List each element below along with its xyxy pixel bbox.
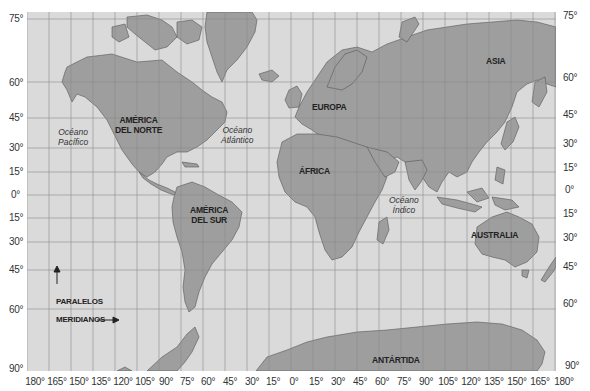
label-australia: AUSTRALIA bbox=[471, 230, 518, 240]
lon-label: 165° bbox=[530, 376, 549, 387]
lat-label: 15° bbox=[9, 166, 23, 177]
label-asia: ASIA bbox=[486, 56, 506, 66]
lat-label: 45° bbox=[9, 112, 23, 123]
lon-label: 45° bbox=[353, 376, 367, 387]
lat-label: 30° bbox=[9, 142, 23, 153]
lon-label: 30° bbox=[331, 376, 345, 387]
lon-label: 120° bbox=[461, 376, 480, 387]
uk-shape bbox=[285, 86, 302, 108]
lat-label: 15° bbox=[563, 162, 577, 173]
lon-label: 0° bbox=[290, 376, 299, 387]
lat-label: 45° bbox=[9, 264, 23, 275]
lon-label: 105° bbox=[135, 376, 154, 387]
south-america-shape bbox=[172, 182, 242, 312]
label-pacific-ocean: Océano Pacífico bbox=[58, 127, 88, 147]
lat-label: 45° bbox=[563, 261, 577, 272]
lat-label: 75° bbox=[9, 13, 23, 24]
arctic-islands-shape bbox=[127, 15, 177, 50]
lon-label: 15° bbox=[309, 376, 323, 387]
lon-label: 105° bbox=[438, 376, 457, 387]
lon-label: 165° bbox=[47, 376, 66, 387]
lat-label: 15° bbox=[563, 208, 577, 219]
lon-label: 150° bbox=[507, 376, 526, 387]
lat-label: 90° bbox=[9, 363, 23, 374]
lat-label: 15° bbox=[9, 212, 23, 223]
legend-meridians: MERIDIANOS bbox=[56, 315, 105, 324]
lon-label: 15° bbox=[266, 376, 280, 387]
lat-label: 0° bbox=[11, 189, 20, 200]
lat-label: 60° bbox=[9, 77, 23, 88]
lat-label: 60° bbox=[9, 304, 23, 315]
label-europe: EUROPA bbox=[312, 102, 347, 112]
lat-label: 45° bbox=[563, 109, 577, 120]
lon-label: 75° bbox=[180, 376, 194, 387]
lat-label: 0° bbox=[565, 184, 574, 195]
lat-label: 60° bbox=[563, 298, 577, 309]
landmasses bbox=[62, 12, 556, 371]
lon-label: 90° bbox=[419, 376, 433, 387]
world-map bbox=[27, 12, 556, 371]
lon-label: 45° bbox=[223, 376, 237, 387]
lon-label: 60° bbox=[375, 376, 389, 387]
lon-label: 180° bbox=[554, 376, 573, 387]
lon-label: 135° bbox=[91, 376, 110, 387]
lon-label: 150° bbox=[69, 376, 88, 387]
label-antarctica: ANTÁRTIDA bbox=[372, 355, 420, 365]
label-south-america: AMÉRICA DEL SUR bbox=[190, 205, 228, 225]
lon-label: 135° bbox=[484, 376, 503, 387]
lon-label: 30° bbox=[245, 376, 259, 387]
legend-parallels: PARALELOS bbox=[56, 297, 103, 306]
lon-label: 120° bbox=[113, 376, 132, 387]
lon-label: 90° bbox=[159, 376, 173, 387]
label-africa: ÁFRICA bbox=[299, 166, 330, 176]
lat-label: 60° bbox=[563, 72, 577, 83]
lon-label: 180° bbox=[25, 376, 44, 387]
label-indian-ocean: Océano Índico bbox=[389, 195, 419, 215]
lon-label: 75° bbox=[397, 376, 411, 387]
antarctic-peninsula-shape bbox=[147, 327, 199, 371]
label-north-america: AMÉRICA DEL NORTE bbox=[115, 115, 162, 135]
lat-label: 30° bbox=[563, 232, 577, 243]
lat-label: 90° bbox=[565, 360, 579, 371]
lat-label: 75° bbox=[563, 10, 577, 21]
lat-label: 30° bbox=[9, 236, 23, 247]
label-atlantic-ocean: Océano Atlántico bbox=[221, 125, 254, 145]
lon-label: 60° bbox=[201, 376, 215, 387]
map-canvas bbox=[27, 12, 556, 371]
new-zealand-shape bbox=[541, 257, 556, 282]
greenland-shape bbox=[205, 12, 257, 82]
lat-label: 30° bbox=[563, 138, 577, 149]
